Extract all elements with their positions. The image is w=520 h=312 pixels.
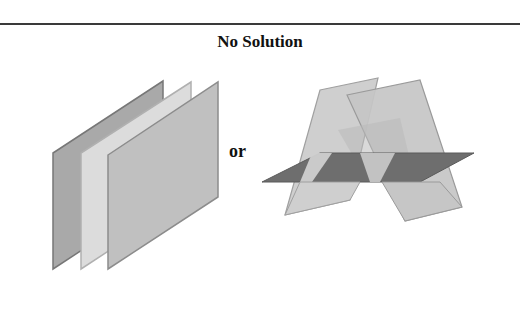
intersecting-planes-figure xyxy=(0,0,520,312)
